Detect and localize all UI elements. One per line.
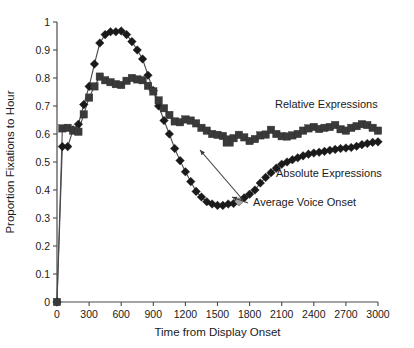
arrow-to-relative-emphasis [200,150,243,200]
data-point-square [80,111,87,118]
x-tick-label: 1200 [174,308,198,320]
data-point-diamond [133,46,142,55]
data-point-diamond [176,156,185,165]
data-point-diamond [181,168,190,177]
x-tick-label: 900 [145,308,163,320]
data-point-diamond [138,55,147,64]
y-tick-label: 0.8 [35,72,50,84]
data-point-diamond [79,100,88,109]
x-tick-label: 2400 [302,308,326,320]
x-tick-label: 1800 [238,308,262,320]
y-tick-label: 0.2 [35,240,50,252]
y-tick-label: 0.6 [35,128,50,140]
series-line-relative-expressions [57,77,378,302]
data-point-square [53,298,60,305]
y-tick-label: 0.3 [35,212,50,224]
x-tick-label: 2100 [270,308,294,320]
data-point-square [75,128,82,135]
data-point-diamond [165,130,174,139]
data-point-diamond [128,37,137,46]
data-point-square [85,94,92,101]
y-tick-label: 1 [44,16,50,28]
y-tick-label: 0.9 [35,44,50,56]
data-point-square [155,97,162,104]
y-tick-label: 0.7 [35,100,50,112]
x-tick-label: 300 [80,308,98,320]
data-point-diamond [186,177,195,186]
chart-figure: 00.10.20.30.40.50.60.70.80.9103006009001… [0,0,414,348]
data-point-square [150,88,157,95]
y-tick-label: 0 [44,296,50,308]
data-point-diamond [170,144,179,153]
annotation-label-average-voice-onset: Average Voice Onset [253,196,356,208]
x-tick-label: 3000 [366,308,390,320]
x-tick-label: 0 [54,308,60,320]
x-tick-label: 2700 [334,308,358,320]
data-point-square [374,127,381,134]
y-tick-label: 0.5 [35,156,50,168]
x-tick-label: 600 [112,308,130,320]
data-point-diamond [90,60,99,69]
data-point-diamond [63,142,72,151]
data-point-square [160,105,167,112]
data-point-diamond [374,138,383,147]
annotation-label-absolute-expressions: Absolute Expressions [276,167,382,179]
y-axis-title: Proportion Fixations to Hour [4,90,16,233]
data-point-square [91,83,98,90]
x-tick-label: 1500 [206,308,230,320]
y-tick-label: 0.4 [35,184,50,196]
data-point-diamond [96,39,105,48]
annotation-label-relative-expressions: Relative Expressions [275,98,378,110]
y-tick-label: 0.1 [35,268,50,280]
line-chart-svg: 00.10.20.30.40.50.60.70.80.9103006009001… [0,0,414,348]
x-axis-title: Time from Display Onset [154,326,281,338]
